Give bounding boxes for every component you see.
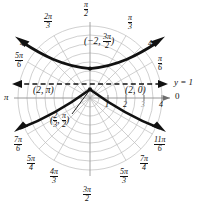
- radial-tick-label-4-upper-right: 4: [148, 40, 152, 48]
- leader-line-two-thirds: [72, 91, 89, 114]
- angle-label-7pi-over-4: 7π 4: [140, 155, 148, 172]
- angle-label-pi: π: [4, 93, 9, 102]
- radial-tick-label-1: 1: [105, 101, 109, 109]
- angle-label-5pi-over-3: 5π 3: [120, 168, 128, 185]
- angle-label-7pi-over-6: 7π 6: [14, 136, 22, 153]
- angle-label-3pi-over-2: 3π 2: [83, 186, 91, 203]
- asymptote-label: y = 1: [174, 78, 193, 87]
- angle-label-pi-over-3: π 3: [128, 14, 132, 31]
- angle-label-5pi-over-4: 5π 4: [27, 155, 35, 172]
- angle-label-pi-over-2: π 2: [84, 1, 88, 18]
- polar-axis-arrow: [163, 95, 170, 100]
- angle-label-pi-over-6: π 6: [158, 55, 162, 72]
- angle-label-5pi-over-6: 5π 6: [15, 52, 23, 69]
- angle-label-zero: 0: [175, 92, 180, 101]
- polar-graph-canvas: [0, 0, 200, 211]
- radial-tick-label-3: 3: [141, 101, 145, 109]
- vertex-dot-upper: [88, 67, 92, 71]
- angle-label-11pi-over-6: 11π 6: [154, 136, 165, 153]
- point-label-2-0: (2, 0): [125, 86, 146, 96]
- point-label-neg2-3pi-2: (−2, 3π 2 ): [84, 33, 114, 50]
- polar-graph-figure: π 2 2π 3 π 3 5π 6 π 6 π 0 7π: [0, 0, 200, 211]
- angle-label-2pi-over-3: 2π 3: [44, 13, 52, 30]
- vertex-dot-lower: [88, 87, 92, 91]
- radial-tick-label-2: 2: [123, 101, 127, 109]
- radial-tick-label-4-upper-left: 4: [20, 40, 24, 48]
- point-label-2-pi: (2, π): [33, 86, 54, 96]
- radial-tick-label-4: 4: [159, 101, 163, 109]
- point-label-two-thirds-pi-2: ( 2 3 , π 2 ): [50, 112, 69, 129]
- angle-label-4pi-over-3: 4π 3: [50, 168, 58, 185]
